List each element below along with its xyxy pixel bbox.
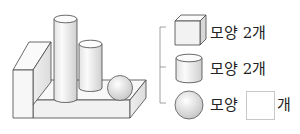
shape-word: 모양 [210,96,238,114]
sphere-icon [175,91,203,119]
sphere [108,76,133,101]
tall-cylinder [54,15,77,102]
row-cube-label: 모양 2개 [210,26,266,41]
short-cylinder [79,40,102,91]
bracket-lines [160,27,166,103]
count-value: 2 [243,60,253,78]
unit: 개 [252,60,266,78]
cylinder-icon [176,54,202,83]
row-cylinder-label: 모양 2개 [210,62,266,77]
cube-icon [175,15,206,45]
shape-word: 모양 [210,24,238,42]
unit: 개 [252,24,266,42]
row-sphere-unit: 개 [277,98,291,113]
count-value: 2 [243,24,253,42]
shape-word: 모양 [210,60,238,78]
row-sphere-label: 모양 [210,98,238,113]
answer-blank-box[interactable] [246,91,275,120]
